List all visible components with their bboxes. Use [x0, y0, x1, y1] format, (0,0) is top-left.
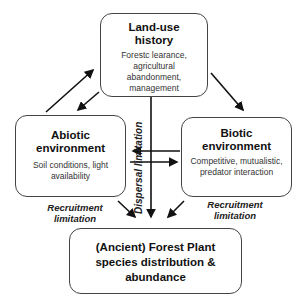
- node-desc: Soil conditions, light availability: [16, 160, 125, 182]
- node-title: Biotic environment: [182, 127, 291, 153]
- edge-label-recruitment-right: Recruitment limitation: [200, 199, 270, 221]
- arrow-landuse-to-biotic: [211, 73, 243, 110]
- edge-label-recruitment-left: Recruitment limitation: [40, 202, 110, 224]
- arrow-landuse-to-abiotic: [78, 92, 99, 110]
- node-desc: Forestc learance, agricultural abandonme…: [101, 50, 207, 94]
- node-landuse-history: Land-use history Forestc learance, agric…: [100, 13, 208, 97]
- arrow-abiotic-to-landuse: [46, 70, 93, 112]
- node-abiotic-environment: Abiotic environment Soil conditions, lig…: [15, 115, 126, 197]
- node-desc: Competitive, mutualistic, predator inter…: [182, 156, 291, 178]
- node-forest-plant-outcome: (Ancient) Forest Plant species distribut…: [69, 228, 242, 294]
- edge-label-dispersal: Dispersal limitation: [133, 122, 144, 214]
- node-title: Abiotic environment: [16, 129, 125, 155]
- node-title: (Ancient) Forest Plant species distribut…: [70, 240, 241, 285]
- node-biotic-environment: Biotic environment Competitive, mutualis…: [181, 117, 292, 197]
- node-title: Land-use history: [101, 21, 207, 47]
- arrow-biotic-to-outcome: [168, 201, 184, 217]
